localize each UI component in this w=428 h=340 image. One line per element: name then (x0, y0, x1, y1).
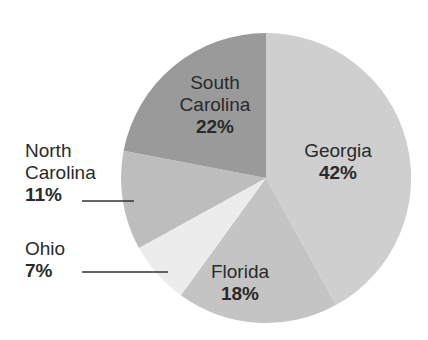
label-percent: 11% (25, 184, 96, 206)
label-percent: 18% (190, 283, 290, 305)
label-text: North (25, 140, 96, 162)
label-north-carolina: North Carolina 11% (25, 140, 96, 206)
label-georgia: Georgia 42% (288, 140, 388, 184)
label-ohio: Ohio 7% (25, 238, 65, 282)
label-text: Ohio (25, 238, 65, 260)
label-florida: Florida 18% (190, 261, 290, 305)
label-percent: 42% (288, 162, 388, 184)
label-text: Carolina (165, 94, 265, 116)
label-text: South (165, 72, 265, 94)
label-text: Florida (190, 261, 290, 283)
label-text: Carolina (25, 162, 96, 184)
label-south-carolina: South Carolina 22% (165, 72, 265, 138)
label-percent: 7% (25, 260, 65, 282)
label-percent: 22% (165, 116, 265, 138)
label-text: Georgia (288, 140, 388, 162)
